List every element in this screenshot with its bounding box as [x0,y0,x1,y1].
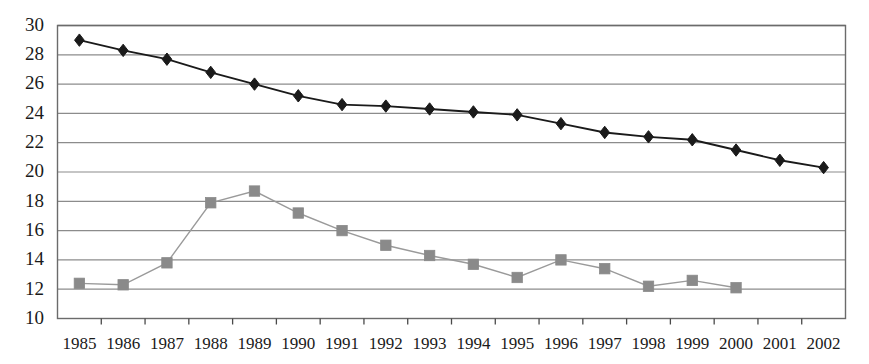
x-tick-label: 1999 [675,334,709,353]
y-tick-label: 20 [25,160,44,181]
x-tick-label: 1996 [544,334,578,353]
x-tick-label: 1994 [456,334,491,353]
x-tick-label: 1987 [150,334,185,353]
data-point-marker [74,278,84,288]
x-tick-label: 1991 [325,334,359,353]
data-point-marker [643,281,653,291]
data-point-marker [118,280,128,290]
y-tick-label: 26 [25,72,44,93]
data-point-marker [512,272,522,282]
x-tick-label: 1986 [106,334,140,353]
x-tick-label: 1985 [62,334,96,353]
y-tick-label: 14 [25,248,45,269]
data-point-marker [468,259,478,269]
y-axis-tick-labels: 1012141618202224262830 [25,14,45,328]
data-point-marker [293,208,303,218]
data-point-marker [381,240,391,250]
data-point-marker [424,250,434,260]
x-tick-label: 1998 [632,334,666,353]
data-point-marker [600,263,610,273]
data-point-marker [249,186,259,196]
data-point-marker [206,198,216,208]
x-tick-label: 1993 [413,334,447,353]
y-tick-label: 30 [25,14,44,35]
y-tick-label: 24 [25,102,45,123]
x-tick-label: 2000 [719,334,753,353]
x-tick-label: 1989 [238,334,272,353]
y-tick-label: 12 [25,278,44,299]
data-point-marker [687,275,697,285]
x-tick-label: 1997 [588,334,623,353]
data-point-marker [731,283,741,293]
data-point-marker [556,255,566,265]
x-tick-label: 1992 [369,334,403,353]
y-tick-label: 16 [25,219,44,240]
x-tick-label: 2002 [807,334,841,353]
line-chart-figure: 1012141618202224262830 19851986198719881… [0,0,869,364]
y-tick-label: 18 [25,190,44,211]
x-tick-label: 2001 [763,334,797,353]
x-tick-label: 1990 [281,334,315,353]
data-point-marker [337,225,347,235]
data-point-marker [162,258,172,268]
y-tick-label: 22 [25,131,44,152]
y-tick-label: 10 [25,307,44,328]
x-tick-label: 1995 [500,334,534,353]
x-tick-label: 1988 [194,334,228,353]
y-tick-label: 28 [25,43,44,64]
chart-plot-area: 1012141618202224262830 19851986198719881… [0,0,869,364]
